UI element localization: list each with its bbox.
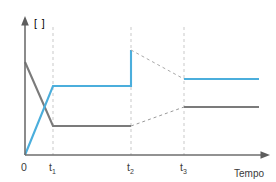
y-axis-arrow-icon: [21, 16, 29, 26]
x-tick-label-t3: t3: [180, 161, 187, 175]
gray-series-dashed-transition: [131, 107, 184, 126]
x-tick-t3-subscript: 3: [183, 168, 187, 175]
x-tick-t1-subscript: 1: [52, 168, 56, 175]
x-tick-label-t2: t2: [127, 161, 134, 175]
line-chart-plot: [ ] 0 t1 t2 t3 Tempo: [0, 0, 276, 182]
blue-series-dashed-transition: [131, 50, 184, 79]
x-tick-label-0: 0: [21, 161, 27, 173]
chart-container: [ ] 0 t1 t2 t3 Tempo: [0, 0, 276, 182]
blue-series-solid-left: [25, 50, 131, 155]
x-tick-label-t1: t1: [49, 161, 56, 175]
x-axis-title: Tempo: [234, 168, 264, 179]
y-axis-label: [ ]: [34, 17, 46, 29]
x-tick-t2-subscript: 2: [130, 168, 134, 175]
x-axis-arrow-icon: [261, 151, 271, 159]
